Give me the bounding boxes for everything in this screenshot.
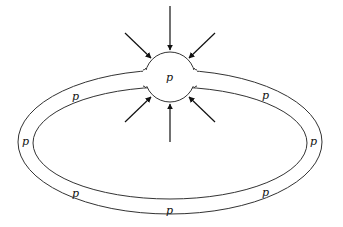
label-bottom-left: p <box>72 187 79 200</box>
arrow-top-left-icon <box>125 33 151 58</box>
label-center: p <box>166 71 173 84</box>
arrow-bottom-left-icon <box>125 97 151 122</box>
label-right: p <box>310 135 317 148</box>
ring-pressure-diagram: p p p p p p p p <box>0 0 343 227</box>
arrow-bottom-right-icon <box>189 97 215 122</box>
label-top-left: p <box>72 90 79 103</box>
arrow-top-right-icon <box>189 33 215 58</box>
label-bottom: p <box>166 204 173 217</box>
label-top-right: p <box>262 89 269 102</box>
label-left: p <box>22 135 29 148</box>
label-bottom-right: p <box>262 186 269 199</box>
inner-ring-wall <box>33 87 307 199</box>
